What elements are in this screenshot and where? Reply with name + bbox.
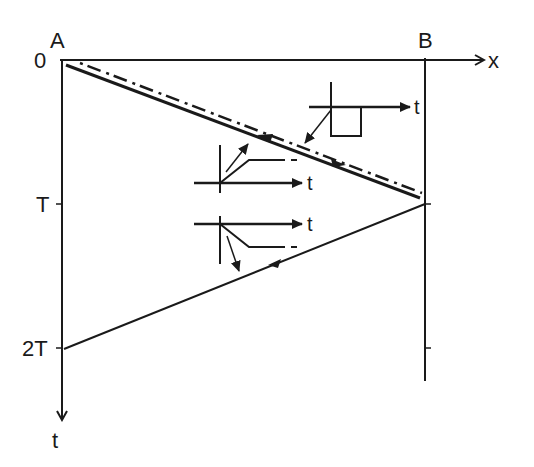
x-t-wave-diagram: A B 0 x t T 2T t t t bbox=[0, 0, 534, 467]
label-origin: 0 bbox=[34, 48, 46, 73]
falling-ramp-inset: t bbox=[194, 213, 313, 271]
square-pulse-inset: t bbox=[305, 82, 420, 143]
incident-wave-solid bbox=[66, 65, 420, 198]
label-x: x bbox=[488, 48, 499, 73]
label-T: T bbox=[36, 192, 49, 217]
label-t-axis: t bbox=[52, 428, 58, 453]
inset-axis-t: t bbox=[307, 172, 313, 194]
label-2T: 2T bbox=[22, 336, 48, 361]
label-a: A bbox=[50, 28, 65, 53]
incident-wave-dashed bbox=[80, 63, 422, 193]
reflected-wave bbox=[64, 204, 425, 349]
boundary-b-line bbox=[425, 58, 431, 381]
label-b: B bbox=[418, 28, 433, 53]
inset-axis-t: t bbox=[307, 213, 313, 235]
inset-axis-t: t bbox=[414, 96, 420, 118]
